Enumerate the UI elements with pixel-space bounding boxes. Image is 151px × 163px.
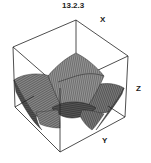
z-axis-label: Z (136, 84, 141, 93)
surface-plot-svg (0, 0, 151, 163)
surface-petal-front-left (36, 110, 60, 128)
x-axis-label: X (100, 15, 105, 24)
surface-petal-front-right (80, 110, 104, 130)
figure-label: 13.2.3 (62, 1, 84, 10)
y-axis-label: Y (102, 136, 107, 145)
surface-plot-figure: 13.2.3 X Z Y (0, 0, 151, 163)
